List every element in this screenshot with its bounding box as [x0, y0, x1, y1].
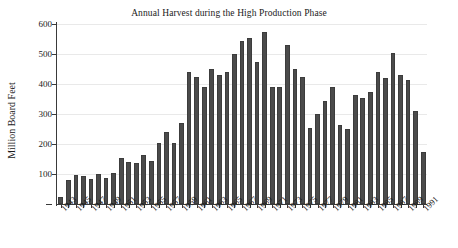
y-tick-label: 300 [22, 109, 52, 119]
bar [285, 45, 290, 204]
y-tick-label: 500 [22, 49, 52, 59]
y-tick-mark [52, 84, 56, 85]
y-tick-mark [52, 174, 56, 175]
bar [217, 75, 222, 204]
bar [308, 128, 313, 205]
bar [164, 132, 169, 204]
bar [202, 87, 207, 204]
bar [293, 69, 298, 204]
bar [398, 75, 403, 204]
bar [330, 87, 335, 204]
bar-chart-figure: Annual Harvest during the High Productio… [0, 0, 458, 248]
bar [225, 72, 230, 204]
chart-title: Annual Harvest during the High Productio… [0, 8, 458, 18]
bar [323, 101, 328, 205]
bar [255, 62, 260, 205]
bar [209, 69, 214, 204]
y-tick-mark [52, 54, 56, 55]
y-axis-title: Million Board Feet [4, 50, 18, 190]
bar [300, 77, 305, 205]
bar [338, 125, 343, 205]
bar [179, 123, 184, 204]
bar [247, 38, 252, 205]
bar [194, 77, 199, 205]
bar-series [57, 24, 427, 204]
x-axis-labels: 1943194519471949195119531955195719591961… [0, 206, 458, 248]
bar [240, 41, 245, 205]
y-tick-mark [52, 144, 56, 145]
bar [360, 98, 365, 205]
bar [421, 152, 426, 205]
bar [413, 111, 418, 204]
y-tick-mark [52, 114, 56, 115]
bar [368, 92, 373, 205]
y-tick-label: 100 [22, 169, 52, 179]
bar [270, 87, 275, 204]
bar [353, 95, 358, 205]
y-tick-label: 600 [22, 19, 52, 29]
y-tick-mark [52, 24, 56, 25]
bar [391, 53, 396, 205]
y-tick-label: 400 [22, 79, 52, 89]
bar [232, 54, 237, 204]
bar [315, 114, 320, 204]
bar [262, 32, 267, 205]
bar [345, 129, 350, 204]
bar [376, 72, 381, 204]
y-axis-zero-tick [46, 204, 52, 205]
bar [383, 78, 388, 204]
bar [277, 87, 282, 204]
y-tick-label: 200 [22, 139, 52, 149]
y-axis-title-text: Million Board Feet [6, 82, 17, 159]
bar [406, 80, 411, 205]
bar [187, 72, 192, 204]
